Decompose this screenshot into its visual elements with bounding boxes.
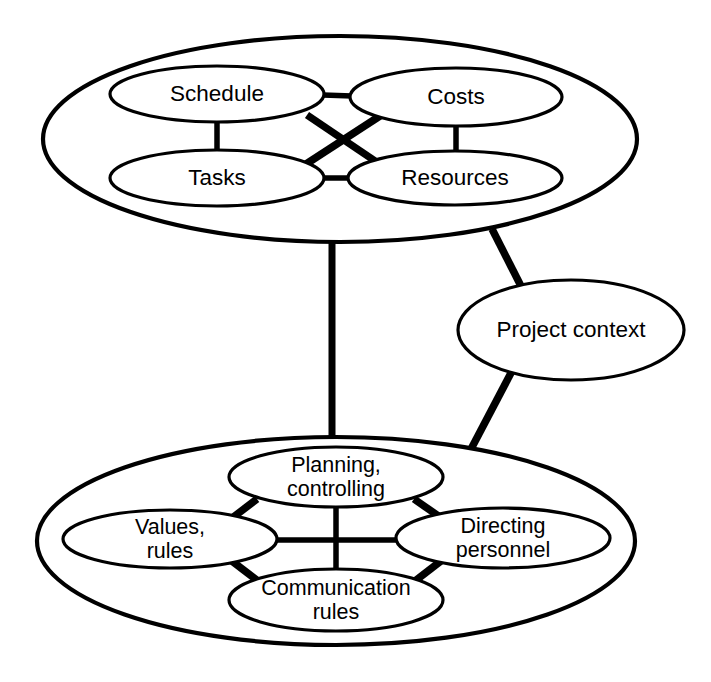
- node-values-rules-label-line2: rules: [147, 539, 194, 563]
- node-resources[interactable]: Resources: [348, 151, 562, 205]
- node-values-rules[interactable]: Values, rules: [63, 510, 277, 568]
- node-tasks[interactable]: Tasks: [110, 150, 324, 206]
- node-communication-rules-label-line2: rules: [313, 600, 360, 624]
- node-costs[interactable]: Costs: [350, 68, 562, 126]
- node-resources-label: Resources: [401, 165, 509, 190]
- node-costs-label: Costs: [427, 84, 485, 109]
- concept-diagram: Schedule Costs Tasks Resources Project c…: [0, 0, 711, 682]
- node-planning-controlling-label-line1: Planning,: [291, 453, 381, 477]
- node-planning-controlling-label-line2: controlling: [287, 477, 385, 501]
- node-project-context-label: Project context: [497, 317, 647, 342]
- node-tasks-label: Tasks: [188, 165, 246, 190]
- connector-hard-factors-to-project-context: [492, 229, 524, 292]
- node-values-rules-label-line1: Values,: [135, 515, 205, 539]
- node-communication-rules-label-line1: Communication: [261, 576, 410, 600]
- node-schedule-label: Schedule: [170, 81, 264, 106]
- connector-project-context-to-soft-factors: [470, 371, 512, 451]
- diagram-canvas: Schedule Costs Tasks Resources Project c…: [0, 0, 711, 682]
- node-directing-personnel-label-line2: personnel: [456, 538, 550, 562]
- node-schedule[interactable]: Schedule: [110, 66, 324, 122]
- node-planning-controlling[interactable]: Planning, controlling: [229, 447, 443, 507]
- node-communication-rules[interactable]: Communication rules: [229, 569, 443, 631]
- node-directing-personnel[interactable]: Directing personnel: [396, 508, 610, 568]
- node-project-context[interactable]: Project context: [458, 280, 684, 380]
- connector-schedule-costs: [323, 95, 352, 96]
- node-directing-personnel-label-line1: Directing: [461, 514, 546, 538]
